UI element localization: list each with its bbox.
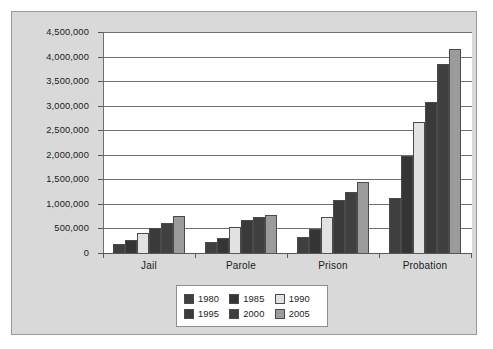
legend-swatch-1980 [184, 294, 194, 304]
bar-group-jail [113, 32, 185, 253]
legend-swatch-1990 [275, 294, 285, 304]
x-tick-label-prison: Prison [287, 260, 379, 278]
legend-swatch-2005 [275, 309, 285, 319]
legend-entry-1990: 1990 [275, 294, 320, 304]
bar-jail-1995 [149, 228, 161, 253]
chart-figure-panel: 4,500,0004,000,0003,500,0003,000,0002,50… [11, 11, 477, 335]
x-axis-tick [103, 253, 104, 258]
bar-jail-2005 [173, 216, 185, 253]
legend-label-2000: 2000 [243, 309, 264, 319]
plot-wrapper: 4,500,0004,000,0003,500,0003,000,0002,50… [12, 12, 478, 336]
bar-probation-1980 [389, 198, 401, 253]
y-tick-label: 1,000,000 [46, 199, 89, 209]
bar-jail-1990 [137, 233, 149, 253]
bar-probation-1985 [401, 156, 413, 253]
legend-swatch-1995 [184, 309, 194, 319]
legend-entry-1995: 1995 [184, 309, 229, 319]
legend-entry-2005: 2005 [275, 309, 320, 319]
bar-parole-1980 [205, 242, 217, 253]
bar-prison-1995 [333, 200, 345, 253]
bar-parole-2000 [253, 217, 265, 253]
bar-jail-1980 [113, 244, 125, 253]
bar-prison-2000 [345, 192, 357, 253]
y-tick-label: 2,500,000 [46, 125, 89, 135]
y-tick-label: 4,500,000 [46, 27, 89, 37]
y-axis: 4,500,0004,000,0003,500,0003,000,0002,50… [12, 12, 98, 336]
x-tick-label-parole: Parole [195, 260, 287, 278]
y-tick-label: 1,500,000 [46, 174, 89, 184]
bar-probation-1995 [425, 102, 437, 253]
bar-probation-1990 [413, 122, 425, 253]
bar-prison-1980 [297, 237, 309, 253]
bar-group-parole [205, 32, 277, 253]
bar-parole-1990 [229, 227, 241, 253]
y-tick-label: 3,500,000 [46, 76, 89, 86]
bar-jail-1985 [125, 240, 137, 253]
legend-label-1985: 1985 [243, 294, 264, 304]
chart-legend: 198019851990 199520002005 [176, 285, 328, 327]
legend-swatch-2000 [229, 309, 239, 319]
bar-group-probation [389, 32, 461, 253]
legend-label-1995: 1995 [198, 309, 219, 319]
x-axis-tick [195, 253, 196, 258]
legend-entry-2000: 2000 [229, 309, 274, 319]
bar-parole-1995 [241, 220, 253, 253]
bar-prison-2005 [357, 182, 369, 253]
bar-parole-2005 [265, 215, 277, 254]
bars-layer [103, 32, 471, 253]
legend-swatch-1985 [229, 294, 239, 304]
bar-parole-1985 [217, 238, 229, 253]
bar-probation-2005 [449, 49, 461, 253]
x-tick-label-jail: Jail [103, 260, 195, 278]
bar-prison-1990 [321, 217, 333, 253]
bar-probation-2000 [437, 64, 449, 253]
y-tick-label: 0 [84, 248, 89, 258]
legend-label-1990: 1990 [289, 294, 310, 304]
x-axis-labels: JailParolePrisonProbation [103, 260, 471, 278]
x-axis-tick [379, 253, 380, 258]
legend-label-2005: 2005 [289, 309, 310, 319]
bar-prison-1985 [309, 229, 321, 253]
y-tick-label: 500,000 [54, 223, 89, 233]
legend-entry-1985: 1985 [229, 294, 274, 304]
x-axis-tick [287, 253, 288, 258]
x-axis-tick [471, 253, 472, 258]
bar-group-prison [297, 32, 369, 253]
y-tick-label: 2,000,000 [46, 150, 89, 160]
legend-entry-1980: 1980 [184, 294, 229, 304]
y-tick-label: 3,000,000 [46, 101, 89, 111]
legend-row-bottom: 199520002005 [184, 306, 320, 321]
legend-row-top: 198019851990 [184, 291, 320, 306]
legend-label-1980: 1980 [198, 294, 219, 304]
x-tick-label-probation: Probation [379, 260, 471, 278]
bar-jail-2000 [161, 223, 173, 253]
y-tick-label: 4,000,000 [46, 52, 89, 62]
